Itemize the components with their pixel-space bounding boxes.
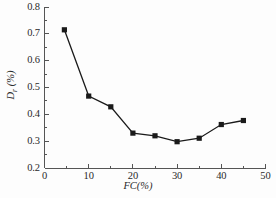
x-tick-label: 50: [251, 170, 277, 181]
x-axis-title: FC(%): [0, 180, 276, 191]
chart-plot-area: [0, 0, 276, 198]
data-point-marker: [108, 104, 113, 109]
chart-axes: [45, 7, 266, 168]
data-point-marker: [241, 118, 246, 123]
data-series-line: [64, 30, 243, 142]
chart-tick-marks: [45, 7, 266, 168]
data-point-marker: [86, 93, 91, 98]
y-axis-title-base: D: [5, 92, 16, 100]
y-axis-title-subscript: r: [10, 89, 19, 92]
x-tick-label: 20: [118, 170, 148, 181]
data-point-marker: [152, 133, 157, 138]
x-tick-label: 30: [162, 170, 192, 181]
data-point-marker: [62, 27, 67, 32]
data-point-marker: [197, 136, 202, 141]
y-axis-title-unit: [5, 86, 16, 89]
x-tick-label: 10: [74, 170, 104, 181]
chart-figure: 0.20.30.40.50.60.70.8 01020304050 FC(%) …: [0, 0, 276, 198]
data-point-marker: [175, 139, 180, 144]
y-axis-title-unit-text: (%): [5, 71, 16, 87]
y-tick-label: 0.7: [4, 27, 40, 38]
y-axis-title: Dr (%): [5, 59, 19, 111]
data-point-marker: [219, 122, 224, 127]
data-point-marker: [130, 131, 135, 136]
x-tick-label: 0: [30, 170, 60, 181]
x-tick-label: 40: [206, 170, 236, 181]
y-tick-label: 0.8: [4, 1, 40, 12]
y-tick-label: 0.3: [4, 135, 40, 146]
